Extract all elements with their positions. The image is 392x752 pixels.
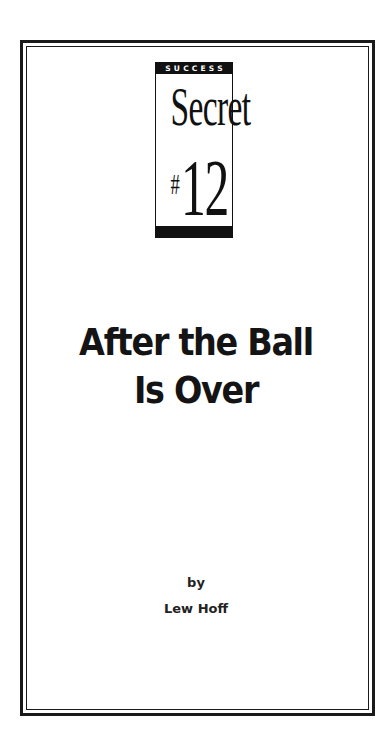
document-title: After the Ball Is Over [24, 318, 369, 414]
author-name: Lew Hoff [0, 601, 392, 616]
badge-word: Secret [170, 77, 217, 137]
success-secret-badge: SUCCESS Secret #12 [155, 62, 233, 238]
badge-hash: # [170, 167, 179, 200]
title-line-1: After the Ball [24, 318, 369, 366]
badge-number-value: 12 [181, 144, 228, 232]
title-line-2: Is Over [24, 366, 369, 414]
byline-by: by [0, 575, 392, 590]
badge-bottom-bar [156, 226, 232, 237]
badge-label: SUCCESS [156, 63, 232, 74]
